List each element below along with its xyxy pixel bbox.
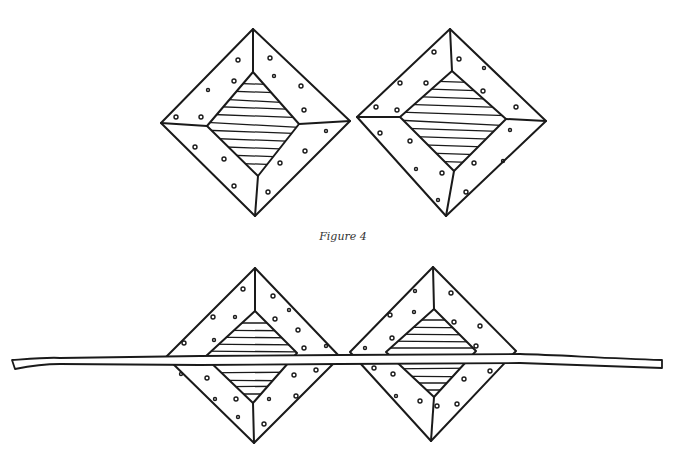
figure-caption: Figure 4 <box>313 230 373 243</box>
diamond-top-left <box>161 29 350 216</box>
diamond-top-right <box>357 29 546 216</box>
figure-illustration <box>0 0 676 458</box>
horizontal-stick <box>12 354 662 369</box>
